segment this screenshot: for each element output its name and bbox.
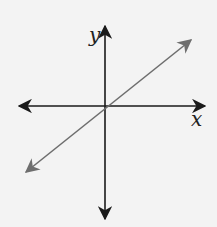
y-axis-label: y	[88, 23, 101, 47]
coordinate-graph: y x	[0, 0, 217, 227]
x-axis-label: x	[191, 107, 202, 131]
